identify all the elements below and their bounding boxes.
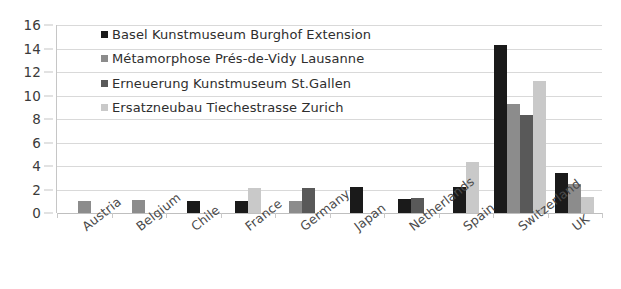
y-tick-mark bbox=[44, 48, 53, 49]
chart-legend: Basel Kunstmuseum Burghof ExtensionMétam… bbox=[101, 27, 371, 115]
y-tick-mark bbox=[44, 213, 53, 214]
y-tick-mark bbox=[44, 25, 53, 26]
x-tick-mark bbox=[221, 213, 222, 218]
x-axis: AustriaBelgiumChileFranceGermanyJapanNet… bbox=[57, 213, 602, 289]
x-tick-mark bbox=[330, 213, 331, 218]
bar[interactable] bbox=[78, 201, 91, 213]
bar-chart: 1614121086420 AustriaBelgiumChileFranceG… bbox=[0, 0, 621, 289]
x-tick-mark bbox=[439, 213, 440, 218]
y-tick-mark bbox=[44, 72, 53, 73]
legend-label: Ersatzneubau Tiechestrasse Zurich bbox=[112, 100, 343, 115]
y-tick-label: 2 bbox=[32, 182, 41, 198]
bar[interactable] bbox=[132, 200, 145, 213]
y-tick-mark bbox=[44, 166, 53, 167]
y-tick-label: 10 bbox=[23, 88, 41, 104]
legend-swatch-icon bbox=[101, 55, 108, 62]
x-tick-mark bbox=[384, 213, 385, 218]
bar[interactable] bbox=[533, 81, 546, 213]
y-tick-label: 8 bbox=[32, 111, 41, 127]
legend-label: Basel Kunstmuseum Burghof Extension bbox=[112, 27, 371, 42]
y-tick-label: 6 bbox=[32, 135, 41, 151]
bar[interactable] bbox=[398, 199, 411, 213]
bar-group bbox=[493, 25, 548, 213]
legend-entry-1[interactable]: Métamorphose Prés-de-Vidy Lausanne bbox=[101, 52, 371, 66]
x-tick-mark bbox=[275, 213, 276, 218]
bar[interactable] bbox=[494, 45, 507, 213]
y-tick-label: 0 bbox=[32, 205, 41, 221]
legend-entry-3[interactable]: Ersatzneubau Tiechestrasse Zurich bbox=[101, 101, 371, 115]
bar[interactable] bbox=[187, 201, 200, 213]
legend-label: Erneuerung Kunstmuseum St.Gallen bbox=[112, 76, 351, 91]
y-tick-label: 16 bbox=[23, 17, 41, 33]
y-tick-label: 12 bbox=[23, 64, 41, 80]
x-tick-mark bbox=[602, 213, 603, 218]
bar[interactable] bbox=[507, 104, 520, 213]
legend-swatch-icon bbox=[101, 80, 108, 87]
legend-swatch-icon bbox=[101, 104, 108, 111]
y-tick-mark bbox=[44, 119, 53, 120]
y-tick-label: 14 bbox=[23, 41, 41, 57]
bar-group bbox=[384, 25, 439, 213]
x-tick-mark bbox=[493, 213, 494, 218]
bar[interactable] bbox=[350, 187, 363, 213]
y-axis: 1614121086420 bbox=[0, 25, 57, 213]
x-tick-mark bbox=[112, 213, 113, 218]
bar[interactable] bbox=[235, 201, 248, 213]
bar[interactable] bbox=[289, 201, 302, 213]
bar[interactable] bbox=[520, 115, 533, 213]
x-tick-mark bbox=[57, 213, 58, 218]
y-tick-mark bbox=[44, 95, 53, 96]
legend-entry-0[interactable]: Basel Kunstmuseum Burghof Extension bbox=[101, 27, 371, 41]
x-tick-label: UK bbox=[569, 211, 592, 234]
y-tick-mark bbox=[44, 189, 53, 190]
legend-swatch-icon bbox=[101, 31, 108, 38]
x-tick-mark bbox=[166, 213, 167, 218]
legend-label: Métamorphose Prés-de-Vidy Lausanne bbox=[112, 51, 364, 66]
y-tick-mark bbox=[44, 142, 53, 143]
legend-entry-2[interactable]: Erneuerung Kunstmuseum St.Gallen bbox=[101, 76, 371, 90]
x-tick-mark bbox=[548, 213, 549, 218]
y-tick-label: 4 bbox=[32, 158, 41, 174]
